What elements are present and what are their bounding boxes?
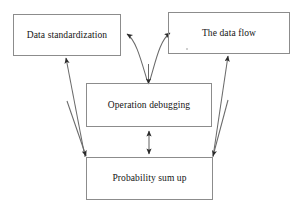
diagram-canvas: Data standardization The data flow Opera… bbox=[0, 0, 304, 213]
scan-artifact-speck bbox=[186, 48, 188, 50]
edge-operation-debugging-to-the-data-flow bbox=[150, 33, 170, 80]
node-data-standardization-label: Data standardization bbox=[27, 30, 107, 40]
node-operation-debugging-label: Operation debugging bbox=[108, 100, 190, 110]
edge-data-standardization-to-probability-sum-up bbox=[67, 101, 86, 156]
node-the-data-flow-label: The data flow bbox=[202, 28, 256, 38]
node-data-standardization[interactable]: Data standardization bbox=[13, 14, 121, 56]
node-probability-sum-up-label: Probability sum up bbox=[112, 173, 186, 183]
node-operation-debugging[interactable]: Operation debugging bbox=[86, 83, 212, 127]
edge-operation-debugging-to-data-standardization bbox=[127, 34, 147, 80]
node-probability-sum-up[interactable]: Probability sum up bbox=[86, 157, 213, 200]
